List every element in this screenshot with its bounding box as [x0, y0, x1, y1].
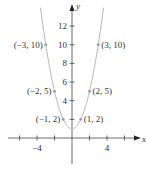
data-point-marker: [88, 90, 91, 93]
axes: xy−444681012: [8, 1, 146, 164]
labeled-points: (−3, 10)(3, 10)(−2, 5)(2, 5)(−1, 2)(1, 2…: [14, 40, 126, 125]
data-point-marker: [97, 43, 100, 46]
y-tick-label: 8: [63, 58, 68, 68]
data-point-label: (−2, 5): [27, 86, 52, 96]
data-point-marker: [62, 118, 65, 121]
data-point-label: (2, 5): [93, 86, 113, 96]
data-point-label: (1, 2): [84, 114, 104, 124]
data-point-marker: [79, 118, 82, 121]
y-tick-label: 6: [63, 77, 68, 87]
x-axis-label: x: [141, 134, 146, 144]
x-tick-label: −4: [32, 143, 42, 153]
y-tick-label: 4: [63, 96, 68, 106]
data-point-label: (3, 10): [101, 40, 125, 50]
data-point-marker: [44, 43, 47, 46]
parabola-chart: xy−444681012 (−3, 10)(3, 10)(−2, 5)(2, 5…: [0, 0, 146, 173]
y-tick-label: 12: [58, 21, 67, 31]
x-axis-arrow-icon: [134, 136, 141, 141]
y-axis-label: y: [75, 1, 80, 11]
y-tick-label: 10: [58, 40, 68, 50]
x-tick-label: 4: [105, 143, 110, 153]
data-point-label: (−1, 2): [36, 114, 61, 124]
data-point-label: (−3, 10): [14, 40, 43, 50]
y-axis-arrow-icon: [70, 4, 75, 11]
data-point-marker: [53, 90, 56, 93]
